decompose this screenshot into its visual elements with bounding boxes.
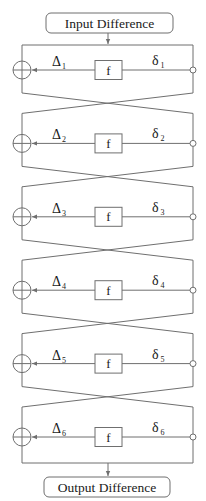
small-delta-label: δ6	[152, 420, 165, 437]
branch-point-icon	[190, 140, 196, 146]
f-label: f	[106, 356, 111, 371]
rounds-group: fΔ1δ1fΔ2δ2fΔ3δ3fΔ4δ4fΔ5δ5fΔ6δ6	[13, 45, 196, 447]
f-label: f	[106, 63, 111, 78]
crossing-wire-right-to-left	[22, 293, 193, 354]
input-difference-label: Input Difference	[65, 16, 154, 31]
crossing-wire-left-to-right	[22, 226, 193, 287]
f-function-box: f	[95, 207, 122, 226]
crossing-wire-right-to-left	[22, 367, 193, 428]
delta-label: Δ1	[52, 54, 66, 71]
f-function-box: f	[95, 134, 122, 153]
xor-icon	[13, 208, 31, 226]
xor-icon	[13, 355, 31, 373]
crossing-wire-right-to-left	[22, 220, 193, 281]
f-function-box: f	[95, 354, 122, 373]
delta-label: Δ5	[52, 348, 66, 365]
round-1: fΔ1δ1	[13, 53, 196, 80]
small-delta-label: δ5	[152, 347, 165, 364]
feistel-diagram: Input Difference fΔ1δ1fΔ2δ2fΔ3δ3fΔ4δ4fΔ5…	[0, 0, 206, 501]
crossings-group	[22, 73, 193, 463]
f-label: f	[106, 430, 111, 445]
round-6: fΔ6δ6	[13, 420, 196, 447]
crossing-wire-left-to-right	[22, 373, 193, 434]
f-label: f	[106, 209, 111, 224]
round-3: fΔ3δ3	[13, 200, 196, 227]
xor-icon	[13, 428, 31, 446]
crossing-wire-left-to-right	[22, 79, 193, 140]
f-function-box: f	[95, 428, 122, 447]
round-4: fΔ4δ4	[13, 273, 196, 300]
xor-icon	[13, 134, 31, 152]
crossing-wire-right-to-left	[22, 73, 193, 134]
f-label: f	[106, 283, 111, 298]
small-delta-label: δ2	[152, 126, 165, 143]
delta-label: Δ3	[52, 201, 66, 218]
crossing-wire-left-to-right	[22, 299, 193, 360]
delta-label: Δ6	[52, 421, 66, 438]
f-function-box: f	[95, 281, 122, 300]
small-delta-label: δ1	[152, 53, 165, 70]
f-label: f	[106, 136, 111, 151]
xor-icon	[13, 281, 31, 299]
branch-point-icon	[190, 214, 196, 220]
input-difference-box: Input Difference	[46, 13, 173, 33]
delta-label: Δ4	[52, 274, 66, 291]
branch-point-icon	[190, 67, 196, 73]
branch-point-icon	[190, 287, 196, 293]
output-difference-label: Output Difference	[58, 480, 156, 495]
crossing-wire-left-to-right	[22, 152, 193, 213]
small-delta-label: δ4	[152, 273, 165, 290]
round-2: fΔ2δ2	[13, 126, 196, 153]
small-delta-label: δ3	[152, 200, 165, 217]
xor-icon	[13, 61, 31, 79]
output-difference-box: Output Difference	[44, 477, 170, 497]
delta-label: Δ2	[52, 127, 66, 144]
branch-point-icon	[190, 434, 196, 440]
f-function-box: f	[95, 61, 122, 80]
round-5: fΔ5δ5	[13, 347, 196, 374]
crossing-wire-right-to-left	[22, 146, 193, 207]
branch-point-icon	[190, 361, 196, 367]
